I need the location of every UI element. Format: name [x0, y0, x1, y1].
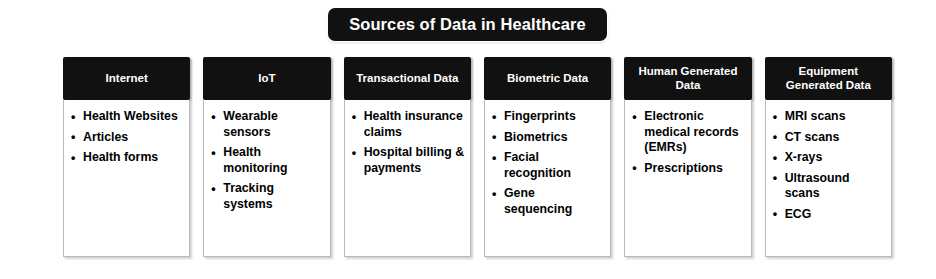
column-header-iot: IoT: [203, 57, 330, 100]
category-column-transactional-data: Transactional Data Health insurance clai…: [344, 57, 471, 257]
list-item: X-rays: [772, 150, 887, 166]
column-header-label: Human Generated Data: [628, 65, 747, 92]
list-item: Prescriptions: [631, 161, 746, 177]
page-title: Sources of Data in Healthcare: [349, 15, 586, 34]
column-header-label: Biometric Data: [507, 72, 588, 86]
bullet-list-human-generated-data: Electronic medical records (EMRs) Prescr…: [631, 109, 746, 176]
category-column-biometric-data: Biometric Data Fingerprints Biometrics F…: [484, 57, 611, 257]
bullet-list-iot: Wearable sensors Health monitoring Track…: [210, 109, 325, 212]
column-header-label: IoT: [258, 72, 275, 86]
list-item: Electronic medical records (EMRs): [631, 109, 746, 156]
column-body-equipment-generated-data: MRI scans CT scans X-rays Ultrasound sca…: [765, 100, 892, 257]
bullet-list-biometric-data: Fingerprints Biometrics Facial recogniti…: [491, 109, 606, 217]
category-column-internet: Internet Health Websites Articles Health…: [63, 57, 190, 257]
list-item: Health Websites: [70, 109, 185, 125]
list-item: Hospital billing & payments: [351, 145, 466, 176]
column-header-biometric-data: Biometric Data: [484, 57, 611, 100]
list-item: CT scans: [772, 130, 887, 146]
bullet-list-internet: Health Websites Articles Health forms: [70, 109, 185, 166]
list-item: Facial recognition: [491, 150, 606, 181]
column-body-human-generated-data: Electronic medical records (EMRs) Prescr…: [624, 100, 751, 257]
list-item: ECG: [772, 207, 887, 223]
list-item: Health forms: [70, 150, 185, 166]
list-item: Biometrics: [491, 130, 606, 146]
column-header-label: Equipment Generated Data: [769, 65, 888, 92]
category-column-equipment-generated-data: Equipment Generated Data MRI scans CT sc…: [765, 57, 892, 257]
list-item: Articles: [70, 130, 185, 146]
category-column-human-generated-data: Human Generated Data Electronic medical …: [624, 57, 751, 257]
diagram-canvas: Sources of Data in Healthcare Internet H…: [0, 0, 936, 279]
category-column-group: Internet Health Websites Articles Health…: [63, 57, 892, 257]
column-header-transactional-data: Transactional Data: [344, 57, 471, 100]
column-body-biometric-data: Fingerprints Biometrics Facial recogniti…: [484, 100, 611, 257]
column-header-human-generated-data: Human Generated Data: [624, 57, 751, 100]
column-body-transactional-data: Health insurance claims Hospital billing…: [344, 100, 471, 257]
column-header-equipment-generated-data: Equipment Generated Data: [765, 57, 892, 100]
column-body-iot: Wearable sensors Health monitoring Track…: [203, 100, 330, 257]
list-item: Wearable sensors: [210, 109, 325, 140]
list-item: Gene sequencing: [491, 186, 606, 217]
column-body-internet: Health Websites Articles Health forms: [63, 100, 190, 257]
bullet-list-equipment-generated-data: MRI scans CT scans X-rays Ultrasound sca…: [772, 109, 887, 222]
list-item: Tracking systems: [210, 181, 325, 212]
list-item: Fingerprints: [491, 109, 606, 125]
column-header-internet: Internet: [63, 57, 190, 100]
column-header-label: Internet: [106, 72, 148, 86]
bullet-list-transactional-data: Health insurance claims Hospital billing…: [351, 109, 466, 176]
list-item: Health insurance claims: [351, 109, 466, 140]
column-header-label: Transactional Data: [356, 72, 458, 86]
diagram-title-banner: Sources of Data in Healthcare: [328, 8, 607, 41]
list-item: Health monitoring: [210, 145, 325, 176]
category-column-iot: IoT Wearable sensors Health monitoring T…: [203, 57, 330, 257]
list-item: Ultrasound scans: [772, 171, 887, 202]
list-item: MRI scans: [772, 109, 887, 125]
